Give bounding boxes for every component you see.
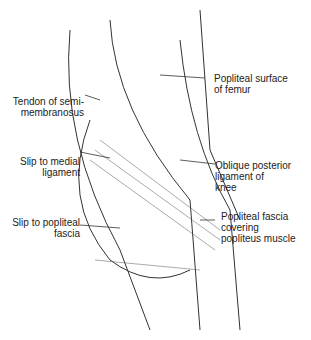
label-line: fascia <box>2 228 80 239</box>
label-popliteal-surface: Popliteal surface of femur <box>214 73 288 95</box>
label-popliteal-slip: Slip to popliteal fascia <box>2 217 80 239</box>
label-line: covering <box>221 222 295 233</box>
label-line: of femur <box>214 84 288 95</box>
label-line: Popliteal fascia <box>221 211 295 222</box>
knee-diagram: Popliteal surface of femur Tendon of sem… <box>0 0 311 340</box>
label-line: membranosus <box>2 107 84 118</box>
label-line: knee <box>215 182 291 193</box>
label-line: Tendon of semi- <box>2 96 84 107</box>
label-line: Slip to medial <box>2 156 80 167</box>
label-line: ligament <box>2 167 80 178</box>
label-line: Popliteal surface <box>214 73 288 84</box>
label-line: ligament of <box>215 171 291 182</box>
label-oblique: Oblique posterior ligament of knee <box>215 160 291 193</box>
label-fascia: Popliteal fascia covering popliteus musc… <box>221 211 295 244</box>
label-line: Slip to popliteal <box>2 217 80 228</box>
label-semimembranosus: Tendon of semi- membranosus <box>2 96 84 118</box>
label-line: popliteus muscle <box>221 233 295 244</box>
label-medial-slip: Slip to medial ligament <box>2 156 80 178</box>
label-line: Oblique posterior <box>215 160 291 171</box>
